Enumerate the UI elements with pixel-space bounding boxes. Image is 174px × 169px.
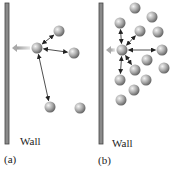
caption-a: (a) bbox=[4, 154, 16, 165]
center-molecule-icon bbox=[32, 43, 43, 54]
force-arrow-icon bbox=[38, 54, 48, 100]
molecule-sphere-icon bbox=[159, 63, 170, 74]
force-arrow-icon bbox=[42, 35, 54, 44]
molecule-sphere-icon bbox=[141, 75, 152, 86]
force-arrow-icon bbox=[43, 49, 67, 52]
molecule-sphere-icon bbox=[129, 85, 140, 96]
molecule-sphere-icon bbox=[142, 55, 153, 66]
center-molecule-icon bbox=[117, 45, 128, 56]
molecule-sphere-icon bbox=[130, 3, 141, 14]
wall-label-b: Wall bbox=[112, 138, 133, 149]
push-arrow-shaft-a bbox=[16, 46, 30, 49]
force-arrow-icon bbox=[120, 29, 121, 43]
molecule-sphere-icon bbox=[115, 18, 126, 29]
molecule-sphere-icon bbox=[115, 75, 126, 86]
push-arrow-head-b bbox=[106, 46, 111, 54]
caption-b: (b) bbox=[98, 155, 111, 166]
molecule-sphere-icon bbox=[135, 26, 146, 37]
molecule-sphere-icon bbox=[157, 45, 168, 56]
molecule-sphere-icon bbox=[75, 103, 86, 114]
push-arrow-head-a bbox=[12, 44, 17, 52]
wall-b bbox=[99, 3, 103, 144]
force-arrow-icon bbox=[126, 36, 135, 46]
wall-a bbox=[5, 3, 9, 144]
wall-label-a: Wall bbox=[20, 136, 41, 147]
molecule-sphere-icon bbox=[54, 26, 65, 37]
molecule-sphere-icon bbox=[147, 12, 158, 23]
molecule-sphere-icon bbox=[153, 27, 164, 38]
molecule-sphere-icon bbox=[130, 65, 141, 76]
molecule-sphere-icon bbox=[45, 102, 56, 113]
molecule-sphere-icon bbox=[69, 48, 80, 59]
force-arrow-icon bbox=[120, 56, 121, 73]
force-arrow-icon bbox=[126, 55, 132, 64]
molecule-sphere-icon bbox=[116, 95, 127, 106]
